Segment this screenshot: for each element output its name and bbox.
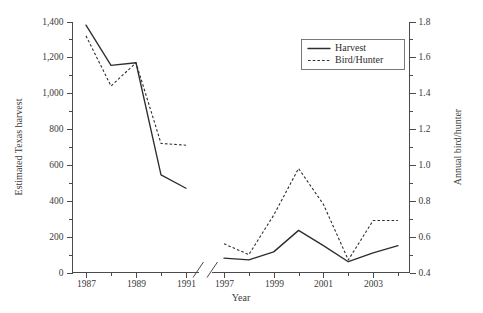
legend: Harvest Bird/Hunter	[302, 40, 405, 70]
series-harvest-panel1	[86, 25, 186, 188]
axis-break-mark-left	[193, 262, 204, 278]
right-axis-ticks	[410, 23, 416, 274]
x-tick-label: 2001	[314, 279, 333, 289]
series-birdhunter-panel2	[224, 169, 398, 260]
y2-tick-label: 1.4	[419, 88, 431, 98]
y2-tick-label: 1.0	[419, 160, 431, 170]
left-axis-ticks	[67, 23, 73, 274]
x-axis-title: Year	[232, 292, 251, 303]
series-harvest-panel2	[224, 230, 398, 261]
x-tick-label: 1997	[215, 279, 234, 289]
axis-break-mark-right	[207, 262, 218, 278]
legend-label-harvest: Harvest	[335, 42, 366, 53]
x-tick-label: 1991	[177, 279, 196, 289]
bottom-axis: 1987198919911997199920012003	[73, 262, 410, 289]
y2-tick-label: 1.2	[419, 124, 431, 134]
series-birdhunter-panel1	[86, 36, 186, 145]
x-axis-ticks	[87, 273, 399, 278]
y2-tick-label: 1.8	[419, 17, 431, 27]
y-tick-label: 1,200	[42, 52, 64, 62]
x-tick-label: 2003	[364, 279, 383, 289]
y-tick-label: 400	[49, 196, 64, 206]
y-axis-title: Estimated Texas harvest	[13, 98, 24, 195]
y2-tick-label: 0.8	[419, 196, 431, 206]
y-tick-label: 1,400	[42, 17, 64, 27]
left-axis-tick-labels: 02004006008001,0001,2001,400	[42, 17, 64, 278]
y-tick-label: 0	[59, 268, 64, 278]
legend-label-birdhunter: Bird/Hunter	[335, 54, 384, 65]
y2-tick-label: 1.6	[419, 52, 431, 62]
y2-axis-title: Annual bird/hunter	[452, 108, 463, 185]
x-tick-label: 1987	[77, 279, 96, 289]
chart-figure: 02004006008001,0001,2001,400 0.40.60.81.…	[0, 0, 483, 313]
left-axis: 02004006008001,0001,2001,400	[42, 17, 72, 278]
y-tick-label: 800	[49, 124, 64, 134]
y-tick-label: 200	[49, 232, 64, 242]
x-tick-label: 1999	[265, 279, 284, 289]
x-tick-label: 1989	[127, 279, 146, 289]
y2-tick-label: 0.6	[419, 232, 431, 242]
y-tick-label: 600	[49, 160, 64, 170]
y2-tick-label: 0.4	[419, 268, 431, 278]
y-tick-label: 1,000	[42, 88, 64, 98]
right-axis-tick-labels: 0.40.60.81.01.21.41.61.8	[419, 17, 431, 278]
line-chart-canvas: 02004006008001,0001,2001,400 0.40.60.81.…	[0, 0, 483, 313]
right-axis: 0.40.60.81.01.21.41.61.8	[410, 17, 431, 278]
x-axis-tick-labels: 1987198919911997199920012003	[77, 279, 383, 289]
